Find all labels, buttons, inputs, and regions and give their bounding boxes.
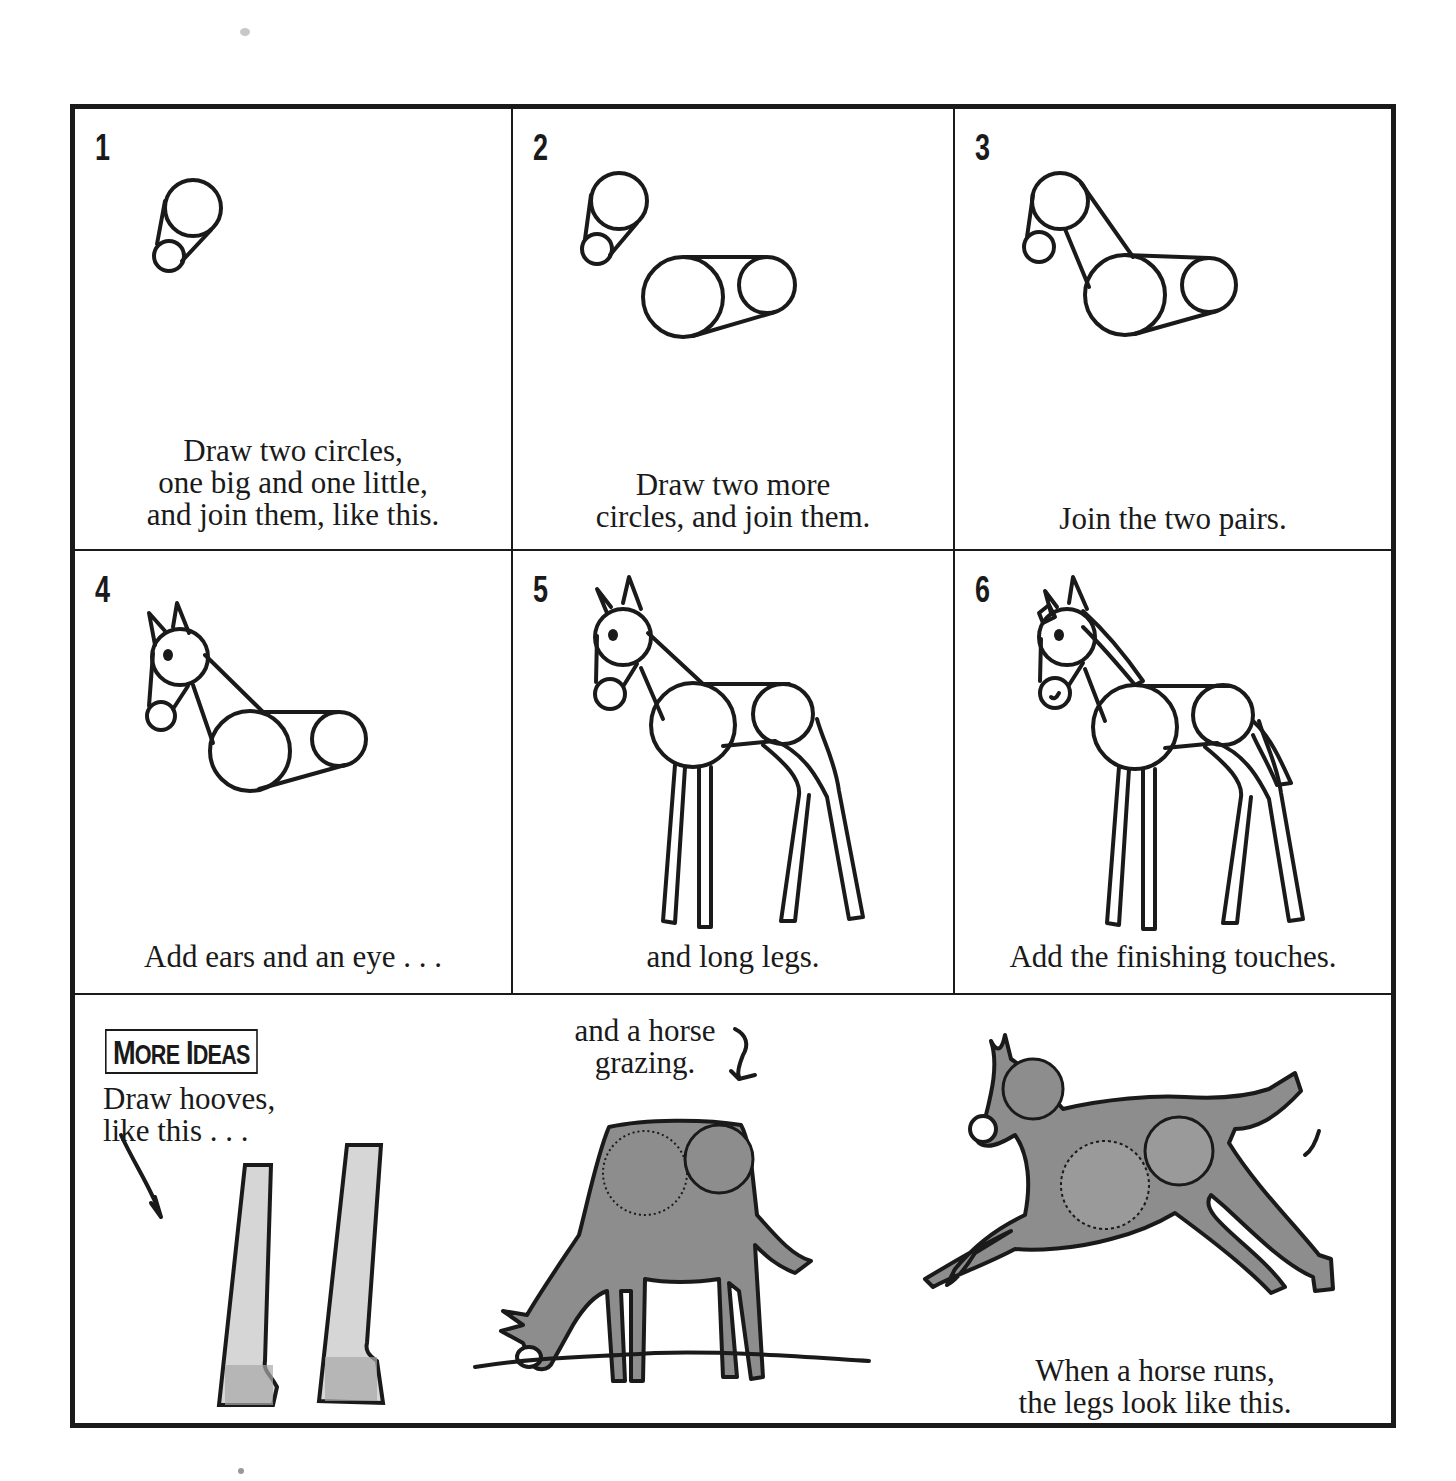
caption-line: and join them, like this. (75, 499, 511, 531)
caption-line: Draw two circles, (75, 435, 511, 467)
step-4-panel: 4 Add ears and an eye . . . (73, 549, 513, 995)
step-caption: Add ears and an eye . . . (75, 941, 511, 973)
caption-line: and a horse (555, 1015, 735, 1047)
grazing-horse-illustration-icon (475, 1095, 895, 1385)
step-caption: Draw two more circles, and join them. (513, 469, 953, 533)
drawing-steps-grid: 1 Draw two circles, one big and one litt… (70, 104, 1396, 1428)
caption-line: Draw hooves, (103, 1083, 275, 1115)
step-1-panel: 1 Draw two circles, one big and one litt… (73, 107, 513, 551)
caption-line: Join the two pairs. (955, 503, 1391, 535)
paper-speck (238, 1468, 244, 1474)
running-horse-illustration-icon (915, 1025, 1375, 1325)
step-caption: Join the two pairs. (955, 503, 1391, 535)
joined-circles-icon (955, 109, 1395, 553)
more-ideas-panel: MORE IDEAS Draw hooves, like this . . . … (73, 993, 1393, 1425)
more-ideas-heading: MORE IDEAS (105, 1029, 258, 1074)
caption-line: circles, and join them. (513, 501, 953, 533)
caption-line: Add the finishing touches. (955, 941, 1391, 973)
horse-ears-eye-icon (75, 551, 515, 997)
caption-line: When a horse runs, (975, 1355, 1335, 1387)
heading-initial: I (186, 1033, 193, 1071)
step-caption: and long legs. (513, 941, 953, 973)
caption-line: the legs look like this. (975, 1387, 1335, 1419)
horse-finished-icon (955, 551, 1395, 997)
step-caption: Add the finishing touches. (955, 941, 1391, 973)
heading-rest: DEAS (193, 1040, 250, 1070)
grazing-caption: and a horse grazing. (555, 1015, 735, 1079)
caption-line: grazing. (555, 1047, 735, 1079)
heading-initial: M (113, 1033, 135, 1071)
step-6-panel: 6 Add the finishing touches. (953, 549, 1393, 995)
heading-rest: ORE (135, 1040, 179, 1070)
curved-arrow-icon (715, 1025, 795, 1095)
caption-line: Add ears and an eye . . . (75, 941, 511, 973)
step-2-panel: 2 Draw two more circles, and join them. (511, 107, 955, 551)
step-5-panel: 5 and long legs. (511, 549, 955, 995)
step-caption: Draw two circles, one big and one little… (75, 435, 511, 531)
running-caption: When a horse runs, the legs look like th… (975, 1355, 1335, 1419)
step-3-panel: 3 Join the two pairs. (953, 107, 1393, 551)
caption-line: Draw two more (513, 469, 953, 501)
hooves-illustration-icon (115, 1125, 435, 1425)
caption-line: and long legs. (513, 941, 953, 973)
paper-speck (240, 28, 250, 36)
caption-line: one big and one little, (75, 467, 511, 499)
horse-legs-icon (513, 551, 957, 997)
